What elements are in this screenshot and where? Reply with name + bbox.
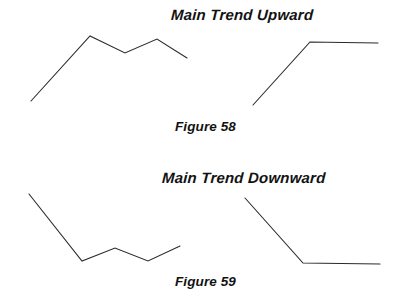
caption-figure-58: Figure 58 bbox=[175, 120, 236, 134]
figure-page: Main Trend Upward Figure 58 Main Trend D… bbox=[0, 0, 395, 303]
trend-lines-canvas bbox=[0, 0, 395, 303]
trendline-upward-thrust-flat bbox=[253, 42, 378, 105]
trendline-upward-zigzag bbox=[31, 36, 187, 101]
title-main-trend-upward: Main Trend Upward bbox=[171, 7, 314, 22]
caption-figure-59: Figure 59 bbox=[175, 275, 236, 289]
trendline-downward-zigzag bbox=[29, 194, 180, 261]
trendline-downward-drop-flat bbox=[245, 198, 380, 264]
title-main-trend-downward: Main Trend Downward bbox=[162, 170, 326, 185]
